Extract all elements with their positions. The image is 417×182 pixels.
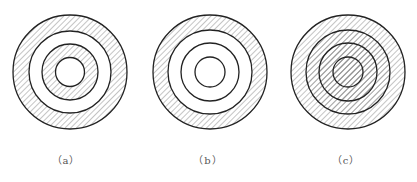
panel-a-diagram (13, 15, 127, 129)
panel-b-label: （b） (183, 152, 233, 167)
panel-a-label: （a） (41, 152, 91, 167)
panel-a-inner-disc (56, 58, 85, 87)
panel-c-diagram (291, 15, 405, 129)
panel-c-label: （c） (321, 152, 371, 167)
panel-b-diagram (153, 15, 267, 129)
panel-b-inner-disc (195, 57, 225, 87)
panel-c-inner-disc (333, 57, 363, 87)
